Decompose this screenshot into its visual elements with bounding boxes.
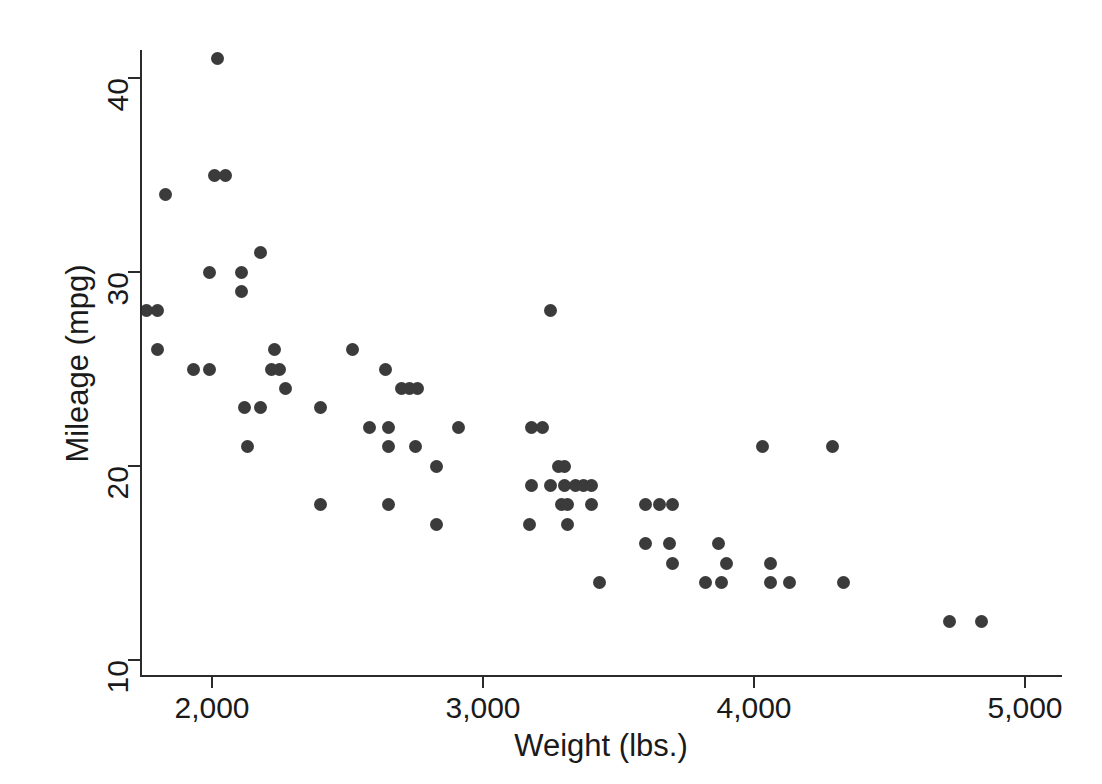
- data-point: [593, 576, 606, 589]
- data-point: [379, 363, 392, 376]
- data-point: [699, 576, 712, 589]
- data-point: [720, 557, 733, 570]
- data-point: [523, 518, 536, 531]
- data-point: [238, 401, 251, 414]
- data-point: [409, 440, 422, 453]
- y-tick-label: 30: [103, 272, 133, 352]
- data-point: [561, 518, 574, 531]
- data-point: [430, 460, 443, 473]
- y-tick-label: 40: [103, 78, 133, 158]
- x-tick-label: 2,000: [142, 691, 282, 725]
- data-point: [756, 440, 769, 453]
- y-tick-label: 10: [103, 660, 133, 740]
- x-tick-mark: [1024, 677, 1026, 688]
- data-point: [314, 401, 327, 414]
- data-point: [279, 382, 292, 395]
- data-point: [411, 382, 424, 395]
- data-point: [536, 421, 549, 434]
- y-tick-label: 20: [103, 466, 133, 546]
- data-point: [363, 421, 376, 434]
- data-point: [783, 576, 796, 589]
- data-point: [268, 343, 281, 356]
- data-point: [151, 304, 164, 317]
- data-point: [666, 498, 679, 511]
- data-point: [639, 498, 652, 511]
- scatter-chart: 10203040 2,0003,0004,0005,000 Mileage (m…: [0, 0, 1102, 784]
- data-point: [211, 52, 224, 65]
- x-tick-mark: [482, 677, 484, 688]
- data-point: [151, 343, 164, 356]
- data-point: [561, 498, 574, 511]
- data-point: [666, 557, 679, 570]
- data-point: [254, 401, 267, 414]
- data-point: [544, 479, 557, 492]
- data-point: [235, 266, 248, 279]
- data-point: [159, 188, 172, 201]
- data-point: [653, 498, 666, 511]
- data-point: [639, 537, 652, 550]
- data-point: [382, 498, 395, 511]
- data-point: [452, 421, 465, 434]
- x-tick-mark: [753, 677, 755, 688]
- data-point: [764, 576, 777, 589]
- data-point: [241, 440, 254, 453]
- data-point: [273, 363, 286, 376]
- x-tick-label: 5,000: [955, 691, 1095, 725]
- data-point: [235, 285, 248, 298]
- data-point: [943, 615, 956, 628]
- data-point: [382, 421, 395, 434]
- data-point: [712, 537, 725, 550]
- data-point: [826, 440, 839, 453]
- data-point: [430, 518, 443, 531]
- data-point: [187, 363, 200, 376]
- data-point: [764, 557, 777, 570]
- x-tick-label: 3,000: [413, 691, 553, 725]
- x-tick-mark: [211, 677, 213, 688]
- data-point: [544, 304, 557, 317]
- data-point: [558, 460, 571, 473]
- y-axis-title: Mileage (mpg): [58, 50, 98, 677]
- x-axis-title: Weight (lbs.): [140, 728, 1062, 764]
- data-point: [203, 363, 216, 376]
- data-point: [663, 537, 676, 550]
- data-point: [254, 246, 267, 259]
- y-axis-line: [140, 50, 142, 677]
- data-point: [585, 479, 598, 492]
- data-point: [314, 498, 327, 511]
- x-axis-line: [140, 675, 1062, 677]
- data-point: [715, 576, 728, 589]
- data-point: [525, 479, 538, 492]
- data-point: [203, 266, 216, 279]
- data-point: [975, 615, 988, 628]
- data-point: [585, 498, 598, 511]
- plot-area: [0, 0, 1102, 784]
- data-point: [382, 440, 395, 453]
- data-point: [346, 343, 359, 356]
- data-point: [219, 169, 232, 182]
- x-tick-label: 4,000: [684, 691, 824, 725]
- data-point: [837, 576, 850, 589]
